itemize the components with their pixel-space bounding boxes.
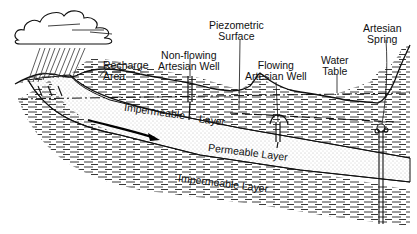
- label-water-table: Water Table: [321, 55, 349, 77]
- label-piezometric-surface: Piezometric Surface: [209, 20, 264, 42]
- label-artesian-spring: Artesian Spring: [363, 23, 402, 45]
- label-flowing-well: Flowing Artesian Well: [245, 60, 307, 82]
- cloud-icon: [15, 11, 112, 44]
- label-recharge-area: Recharge Area: [103, 60, 149, 82]
- label-non-flowing-well: Non-flowing Artesian Well: [158, 50, 220, 72]
